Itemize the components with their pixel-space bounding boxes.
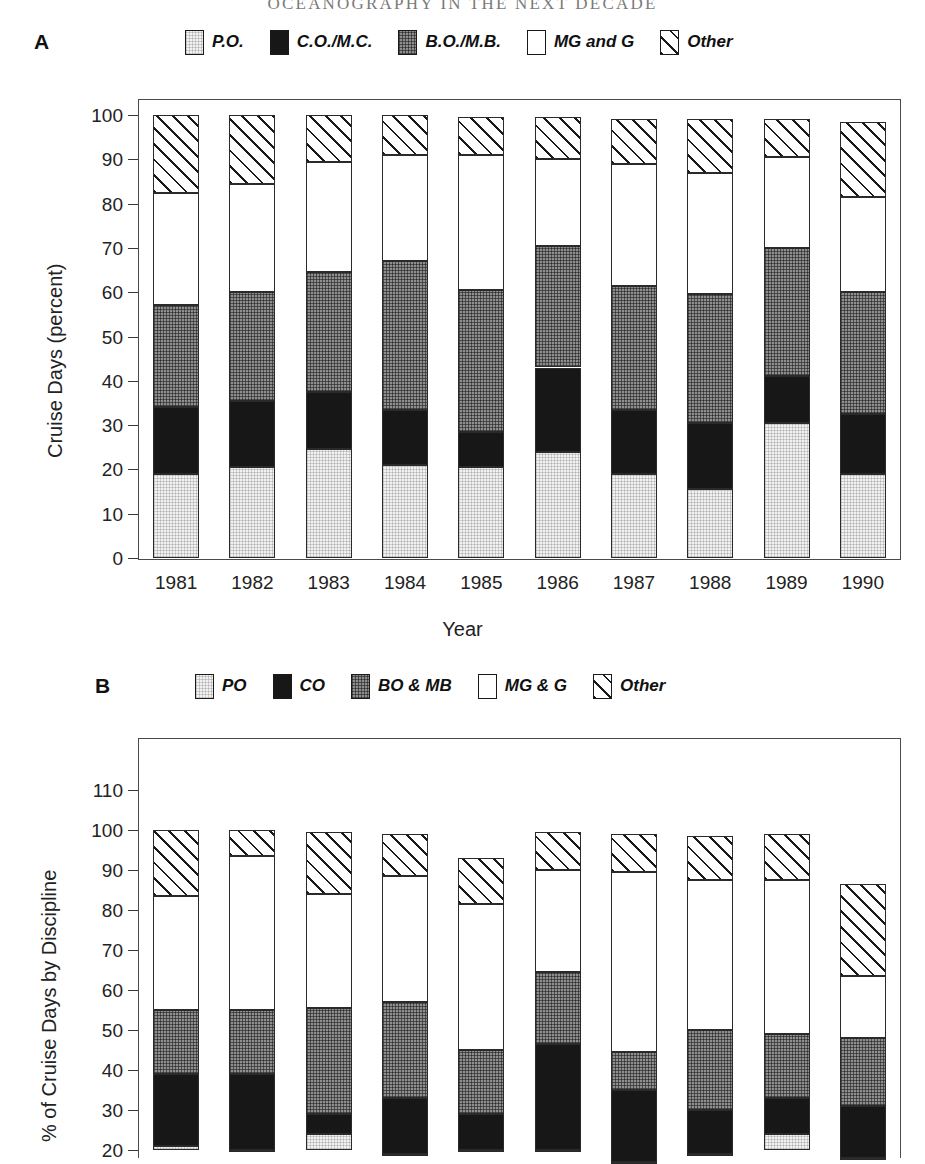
bar-segment-po [306,449,352,558]
bar-segment-mgg [153,896,199,1010]
bar-segment-mgg [535,159,581,245]
y-axis-tick-label: 100 [68,106,123,125]
bar-segment-mgg [764,880,810,1034]
bar-segment-bomb [764,248,810,376]
bar-segment-po [458,467,504,558]
stacked-bar [764,738,810,1158]
legend-item-other: Other [593,674,665,699]
bar-segment-bomb [840,292,886,414]
x-axis-tick-label: 1984 [367,572,443,594]
legend-item-other: Other [660,30,732,55]
y-axis-tick-label: 70 [68,941,123,960]
bar-segment-bomb [306,1008,352,1114]
y-axis-tick-label: 90 [68,861,123,880]
y-axis-tick [128,558,138,559]
stacked-bar [306,99,352,560]
legend-item-co: CO [273,674,326,699]
other-swatch [660,30,679,55]
bar-segment-co [458,1114,504,1150]
x-axis-tick-label: 1990 [825,572,901,594]
stacked-bar [229,738,275,1158]
bar-segment-po [764,1134,810,1150]
bar-segment-other [382,834,428,876]
y-axis-tick-label: 30 [68,1101,123,1120]
y-axis-tick [128,1150,138,1151]
bar-segment-other [840,884,886,976]
po-swatch [195,674,214,699]
y-axis-tick-label: 60 [68,981,123,1000]
bar-segment-co [611,410,657,474]
y-axis-tick-label: 100 [68,821,123,840]
co-swatch [273,674,292,699]
running-head: OCEANOGRAPHY IN THE NEXT DECADE [0,0,925,14]
y-axis-tick-label: 80 [68,901,123,920]
bar-segment-other [764,834,810,880]
bar-segment-mgg [306,894,352,1008]
x-axis-tick-label: 1987 [596,572,672,594]
bar-segment-po [153,1146,199,1150]
legend-label: Other [620,676,665,696]
y-axis-tick [128,870,138,871]
bar-segment-po [611,474,657,558]
bar-segment-mgg [306,162,352,273]
panel-a: A P.O.C.O./M.C.B.O./M.B.MG and GOther 01… [0,28,925,658]
stacked-bar [687,99,733,560]
bar-segment-po [229,1150,275,1152]
y-axis-tick [128,425,138,426]
bar-segment-po [153,474,199,558]
bar-segment-mgg [229,184,275,293]
y-axis-tick [128,1110,138,1111]
bar-segment-co [153,1074,199,1146]
legend-label: C.O./M.C. [297,32,373,52]
legend-label: BO & MB [378,676,452,696]
legend-item-co: C.O./M.C. [270,30,373,55]
bar-segment-other [535,832,581,870]
bar-segment-other [458,858,504,904]
stacked-bar [153,738,199,1158]
bar-segment-mgg [840,197,886,292]
y-axis-tick [128,204,138,205]
bar-segment-co [306,1114,352,1134]
bar-segment-co [840,1106,886,1158]
other-swatch [593,674,612,699]
x-axis-title: Year [0,618,925,641]
y-axis-tick-label: 0 [68,549,123,568]
stacked-bar [458,99,504,560]
bar-segment-bomb [611,286,657,410]
y-axis-tick-label: 10 [68,505,123,524]
bar-segment-po [535,1150,581,1152]
y-axis-tick [128,292,138,293]
mg-g-swatch [527,30,546,55]
bar-segment-bomb [229,1010,275,1074]
bar-segment-co [535,1044,581,1150]
y-axis-tick-label: 30 [68,416,123,435]
bar-segment-other [229,115,275,184]
y-axis-tick-label: 40 [68,372,123,391]
y-axis-tick [128,1070,138,1071]
bar-segment-other [458,117,504,155]
bar-segment-other [611,119,657,163]
legend-item-bomb: BO & MB [351,674,452,699]
x-axis-tick-label: 1982 [214,572,290,594]
bar-segment-other [687,836,733,880]
bar-segment-co [611,1090,657,1162]
bar-segment-bomb [153,1010,199,1074]
bar-segment-po [458,1150,504,1152]
stacked-bar [382,738,428,1158]
bar-segment-po [840,1158,886,1160]
bar-segment-co [229,1074,275,1150]
bar-segment-other [229,830,275,856]
stacked-bar [611,738,657,1158]
y-axis-tick [128,514,138,515]
y-axis-tick [128,159,138,160]
bar-segment-other [535,117,581,159]
bar-segment-co [458,432,504,467]
bar-segment-bomb [840,1038,886,1106]
bar-segment-mgg [229,856,275,1010]
stacked-bar [306,738,352,1158]
bar-segment-po [229,467,275,558]
bar-segment-co [382,1098,428,1154]
stacked-bar [382,99,428,560]
bar-segment-other [840,122,886,197]
